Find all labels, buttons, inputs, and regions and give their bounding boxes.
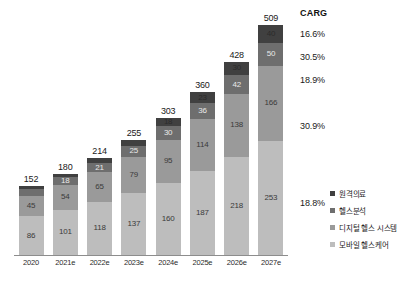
bar-total-label: 152 bbox=[24, 174, 38, 184]
bar-segment: 101 bbox=[53, 210, 78, 255]
chart-legend: 원격의료헬스분석디지털 헬스 시스템모바일 헬스케어 bbox=[330, 188, 397, 256]
bar-segment: 18 bbox=[156, 118, 181, 126]
bar-stack: 2165118 bbox=[87, 158, 112, 255]
bar-total-label: 428 bbox=[229, 50, 243, 60]
bar-segment: 45 bbox=[19, 196, 44, 216]
x-axis-tick-label: 2027e bbox=[254, 258, 288, 267]
carg-value: 30.5% bbox=[300, 52, 325, 62]
legend-label: 모바일 헬스케어 bbox=[339, 239, 388, 250]
bar-segment: 65 bbox=[87, 172, 112, 201]
legend-item[interactable]: 원격의료 bbox=[330, 188, 397, 199]
bar-segment: 86 bbox=[19, 216, 44, 255]
x-axis-line bbox=[14, 255, 288, 256]
bar-segment: 21 bbox=[87, 163, 112, 172]
bar-total-label: 214 bbox=[92, 146, 106, 156]
bar-segment: 187 bbox=[190, 171, 215, 256]
bar-segment: 25 bbox=[121, 146, 146, 157]
x-axis-tick-label: 2026e bbox=[220, 258, 254, 267]
bar-column: 2142165118 bbox=[83, 146, 117, 255]
bar-total-label: 303 bbox=[161, 106, 175, 116]
bar-column: 3602336114187 bbox=[185, 80, 219, 255]
bar-group: 1524586180185410121421651182552579137303… bbox=[14, 8, 288, 255]
bar-total-label: 360 bbox=[195, 80, 209, 90]
legend-label: 원격의료 bbox=[339, 188, 366, 199]
bar-segment: 253 bbox=[258, 141, 283, 255]
bar-total-label: 180 bbox=[58, 162, 72, 172]
legend-item[interactable]: 헬스분석 bbox=[330, 205, 397, 216]
bar-total-label: 255 bbox=[127, 128, 141, 138]
bar-segment: 114 bbox=[190, 119, 215, 171]
legend-item[interactable]: 모바일 헬스케어 bbox=[330, 239, 397, 250]
x-axis-tick-label: 2024e bbox=[151, 258, 185, 267]
x-axis-tick-label: 2022e bbox=[83, 258, 117, 267]
bar-segment: 218 bbox=[224, 157, 249, 256]
bar-column: 5094050166253 bbox=[254, 13, 288, 255]
bar-stack: 183095160 bbox=[156, 118, 181, 255]
bar-column: 1524586 bbox=[14, 174, 48, 255]
bar-segment: 18 bbox=[53, 177, 78, 185]
bar-segment: 42 bbox=[224, 75, 249, 94]
bar-segment: 166 bbox=[258, 66, 283, 141]
bar-segment: 160 bbox=[156, 183, 181, 255]
legend-swatch-icon bbox=[330, 208, 335, 213]
x-axis-tick-label: 2020 bbox=[14, 258, 48, 267]
bar-segment bbox=[19, 189, 44, 196]
carg-value: 30.9% bbox=[300, 121, 325, 131]
legend-swatch-icon bbox=[330, 225, 335, 230]
bar-column: 2552579137 bbox=[117, 128, 151, 255]
bar-segment: 54 bbox=[53, 185, 78, 209]
x-axis-tick-label: 2025e bbox=[185, 258, 219, 267]
legend-item[interactable]: 디지털 헬스 시스템 bbox=[330, 222, 397, 233]
legend-swatch-icon bbox=[330, 191, 335, 196]
carg-value: 18.9% bbox=[300, 75, 325, 85]
bar-column: 4283042138218 bbox=[220, 50, 254, 255]
bar-column: 303183095160 bbox=[151, 106, 185, 255]
bar-segment: 50 bbox=[258, 43, 283, 66]
carg-value: 18.8% bbox=[300, 198, 325, 208]
bar-segment: 23 bbox=[190, 92, 215, 102]
carg-header: CARG bbox=[300, 8, 327, 18]
bar-stack: 1854101 bbox=[53, 174, 78, 255]
bar-segment: 79 bbox=[121, 157, 146, 193]
carg-value: 16.6% bbox=[300, 29, 325, 39]
x-axis-tick-label: 2023e bbox=[117, 258, 151, 267]
bar-segment: 138 bbox=[224, 94, 249, 156]
bar-stack: 3042138218 bbox=[224, 62, 249, 255]
bar-total-label: 509 bbox=[264, 13, 278, 23]
bar-segment: 40 bbox=[258, 25, 283, 43]
bar-stack: 4586 bbox=[19, 186, 44, 255]
bar-segment: 118 bbox=[87, 202, 112, 255]
x-axis-tick-label: 2021e bbox=[48, 258, 82, 267]
bar-stack: 4050166253 bbox=[258, 25, 283, 255]
legend-swatch-icon bbox=[330, 242, 335, 247]
bar-segment: 137 bbox=[121, 193, 146, 255]
bar-stack: 2579137 bbox=[121, 140, 146, 255]
bar-segment: 95 bbox=[156, 140, 181, 183]
stacked-bar-chart: 1524586180185410121421651182552579137303… bbox=[0, 0, 412, 282]
bar-stack: 2336114187 bbox=[190, 92, 215, 255]
legend-label: 헬스분석 bbox=[339, 205, 366, 216]
bar-segment: 30 bbox=[156, 126, 181, 140]
bar-segment: 30 bbox=[224, 62, 249, 76]
plot-area: 1524586180185410121421651182552579137303… bbox=[14, 8, 288, 256]
bar-column: 1801854101 bbox=[48, 162, 82, 255]
bar-segment: 36 bbox=[190, 103, 215, 119]
legend-label: 디지털 헬스 시스템 bbox=[339, 222, 397, 233]
x-axis-labels: 20202021e2022e2023e2024e2025e2026e2027e bbox=[14, 258, 288, 267]
